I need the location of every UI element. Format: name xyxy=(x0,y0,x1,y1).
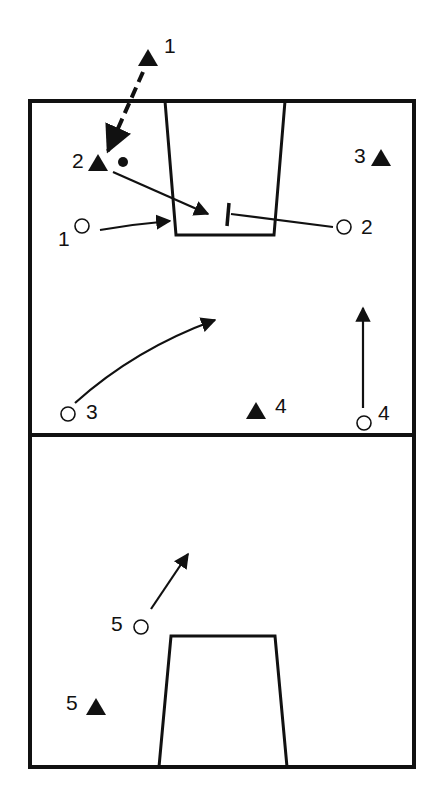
action-lines xyxy=(75,72,363,609)
defender-triangle-icon xyxy=(371,149,391,166)
offense-circle-icon xyxy=(75,219,89,233)
defender-triangle-icon xyxy=(138,49,158,66)
defender-label: 4 xyxy=(275,394,287,417)
defender-label: 2 xyxy=(72,149,84,172)
ball xyxy=(118,157,128,167)
cut-o5-line xyxy=(151,554,188,609)
offense-label: 5 xyxy=(111,612,123,635)
top-key xyxy=(165,101,285,235)
screen-bar-icon xyxy=(227,203,229,226)
defender-label: 5 xyxy=(66,691,78,714)
screen-o2-line xyxy=(231,214,333,227)
offense-label: 3 xyxy=(86,400,98,423)
bottom-key xyxy=(159,636,287,767)
offense-players: 12345 xyxy=(58,215,390,635)
defender-triangle-icon xyxy=(86,698,106,715)
offense-label: 4 xyxy=(378,401,390,424)
offense-label: 1 xyxy=(58,227,70,250)
offense-label: 2 xyxy=(361,215,373,238)
defender-label: 3 xyxy=(354,144,366,167)
defender-triangle-icon xyxy=(246,402,266,419)
offense-circle-icon xyxy=(134,620,148,634)
cut-o1-line xyxy=(100,221,170,230)
offense-circle-icon xyxy=(61,407,75,421)
offense-circle-icon xyxy=(337,220,351,234)
cut-o3-line xyxy=(75,320,215,403)
defender-label: 1 xyxy=(164,34,176,57)
pass-d1-to-d2-line xyxy=(108,72,143,151)
play-diagram: 12345 12345 xyxy=(0,0,437,797)
defender-triangle-icon xyxy=(88,154,108,171)
offense-circle-icon xyxy=(357,416,371,430)
ball-icon xyxy=(118,157,128,167)
court-lines xyxy=(30,101,414,767)
cut-d2-line xyxy=(113,172,208,214)
